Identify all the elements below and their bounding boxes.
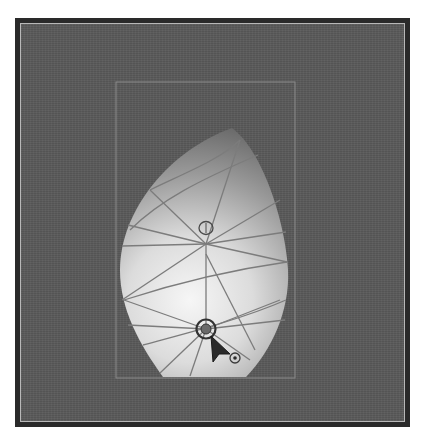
mesh-object[interactable] [120, 128, 288, 377]
artwork-canvas[interactable] [0, 0, 426, 444]
